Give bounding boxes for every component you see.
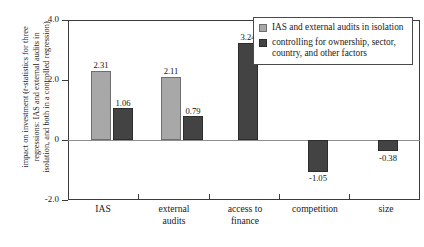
- x-tick-2: [209, 194, 210, 200]
- bar-value-ias-controlled: 1.06: [103, 98, 143, 108]
- legend-swatch-light-icon: [259, 24, 267, 32]
- x-tick-3: [279, 194, 280, 200]
- chart-figure: impact on investment (t-statistics for t…: [0, 0, 424, 247]
- y-tick-label-neg2: -2.0: [33, 194, 59, 204]
- x-label-access-to-finance-line-2: finance: [214, 215, 276, 227]
- x-tick-4: [349, 194, 350, 200]
- chart-legend: IAS and external audits in isolation con…: [253, 17, 413, 65]
- x-axis-labels: IAS external audits access to finance co…: [68, 203, 420, 245]
- x-label-competition: competition: [280, 203, 350, 215]
- y-axis-label-line-1: impact on investment (t-statistics for t…: [21, 21, 32, 172]
- zero-baseline: [68, 140, 420, 141]
- y-axis-line: [68, 20, 69, 200]
- bar-competition-controlled: [308, 140, 328, 172]
- y-tick-label-0: 0: [33, 134, 59, 144]
- y-axis-label-line-2: regressions: IAS and external audits in: [32, 21, 43, 172]
- y-tick-neg2: -2.0: [62, 200, 68, 201]
- bar-ias-controlled: [113, 108, 133, 140]
- x-label-ias: IAS: [73, 203, 133, 215]
- bar-value-ias-isolation: 2.31: [81, 60, 121, 70]
- y-axis-label-seg-b: -statistics for three: [21, 26, 30, 88]
- y-axis-label-line-3: isolation, and both in a controlled regr…: [42, 21, 53, 172]
- x-label-size-line-1: size: [356, 203, 416, 215]
- y-axis-label: impact on investment (t-statistics for t…: [14, 0, 60, 197]
- bar-external-audits-controlled: [183, 116, 203, 140]
- y-tick-label-2: 2.0: [33, 74, 59, 84]
- x-label-access-to-finance-line-1: access to: [214, 203, 276, 215]
- y-tick-4: 4.0: [62, 20, 68, 21]
- bar-value-competition-controlled: -1.05: [298, 173, 338, 183]
- y-axis-label-seg-a: impact on investment (: [21, 91, 30, 168]
- x-label-size: size: [356, 203, 416, 215]
- plot-frame-right: [419, 20, 420, 200]
- legend-label-controlled: controlling for ownership, sector, count…: [272, 37, 407, 59]
- x-label-access-to-finance: access to finance: [214, 203, 276, 226]
- bar-value-external-audits-isolation: 2.11: [151, 66, 191, 76]
- y-tick-label-4: 4.0: [33, 14, 59, 24]
- x-label-competition-line-1: competition: [280, 203, 350, 215]
- x-label-external-audits-line-2: audits: [143, 215, 205, 227]
- y-tick-0: 0: [62, 140, 68, 141]
- legend-entry-controlled: controlling for ownership, sector, count…: [259, 37, 407, 59]
- legend-swatch-dark-icon: [259, 39, 267, 47]
- bar-value-external-audits-controlled: 0.79: [173, 106, 213, 116]
- plot-frame-bottom: [68, 199, 420, 200]
- plot-area: 4.0 2.0 0 -2.0 2.31 1.06 2.11 0.79 3.24: [68, 20, 420, 200]
- legend-entry-isolation: IAS and external audits in isolation: [259, 22, 407, 33]
- bar-value-size-controlled: -0.38: [368, 153, 408, 163]
- y-tick-2: 2.0: [62, 80, 68, 81]
- bar-size-controlled: [378, 140, 398, 151]
- x-label-external-audits: external audits: [143, 203, 205, 226]
- x-label-ias-line-1: IAS: [73, 203, 133, 215]
- x-tick-1: [138, 194, 139, 200]
- legend-label-isolation: IAS and external audits in isolation: [272, 22, 403, 33]
- x-label-external-audits-line-1: external: [143, 203, 205, 215]
